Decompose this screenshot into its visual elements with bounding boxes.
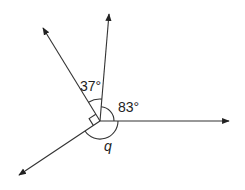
arc-37: [89, 99, 102, 102]
angle-diagram: 37° 83° q: [0, 0, 245, 190]
ray-lower-left: [19, 121, 100, 175]
angle-label-83: 83°: [118, 99, 139, 115]
ray-up: [100, 14, 109, 121]
arc-q: [85, 121, 118, 139]
arc-83: [101, 107, 114, 121]
angle-label-q: q: [104, 138, 112, 154]
angle-label-37: 37°: [80, 78, 101, 94]
right-angle-marker: [89, 114, 96, 125]
ray-upper-left: [43, 28, 100, 121]
